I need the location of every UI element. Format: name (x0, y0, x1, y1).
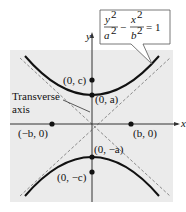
co-vertex-right-point (128, 121, 133, 126)
focus-bottom-point (89, 169, 94, 174)
x-axis-arrow-icon (174, 122, 180, 126)
eq-exp4: 2 (137, 24, 143, 36)
focus-top-label: (0, c) (63, 74, 87, 87)
hyperbola-diagram: x y (0, c) (0, a) (0, −a) (0, −c) (−b, 0… (0, 0, 186, 212)
transverse-label-line1: Transverse (12, 90, 60, 102)
eq-exp3: 2 (137, 8, 143, 20)
co-vertex-left-label: (−b, 0) (18, 127, 48, 140)
vertex-top-label: (0, a) (95, 93, 119, 106)
eq-num2: x (130, 13, 136, 25)
eq-exp1: 2 (111, 8, 117, 20)
vertex-bottom-point (89, 154, 94, 159)
focus-bottom-label: (0, −c) (57, 171, 87, 184)
vertex-bottom-label: (0, −a) (94, 143, 124, 156)
co-vertex-left-point (49, 121, 54, 126)
eq-rhs: = 1 (146, 21, 160, 33)
co-vertex-right-label: (b, 0) (133, 127, 157, 140)
eq-exp2: 2 (111, 24, 117, 36)
vertex-top-point (89, 92, 94, 97)
focus-top-point (89, 77, 94, 82)
eq-num1: y (104, 13, 110, 25)
x-axis-label: x (180, 117, 186, 129)
eq-den1: a (104, 29, 110, 41)
transverse-label-line2: axis (12, 103, 30, 115)
eq-minus: − (120, 21, 126, 33)
y-axis-label: y (85, 30, 91, 42)
